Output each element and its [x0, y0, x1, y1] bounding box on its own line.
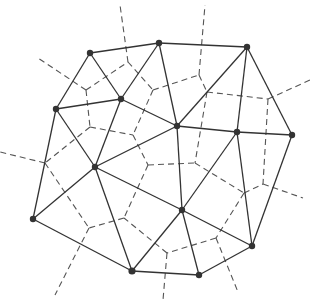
delaunay-edge-FK — [177, 126, 182, 210]
voronoi-edge — [86, 90, 90, 127]
delaunay-edge-GH — [237, 132, 292, 135]
voronoi-edge — [148, 163, 195, 165]
voronoi-edge — [163, 253, 167, 300]
delaunay-edge-AB — [90, 43, 159, 53]
delaunay-edge-FG — [177, 126, 237, 132]
voronoi-edge — [55, 228, 89, 295]
delaunay-edge-FI — [95, 126, 177, 167]
delaunay-edge-CG — [237, 47, 247, 132]
delaunay-edges — [33, 43, 292, 275]
delaunay-edge-GL — [237, 132, 252, 246]
sites — [30, 40, 295, 278]
site-point-I — [92, 164, 98, 170]
site-point-E — [118, 96, 124, 102]
site-point-D — [53, 106, 59, 112]
delaunay-edge-GK — [182, 132, 237, 210]
voronoi-edge — [216, 238, 238, 292]
delaunay-edge-BC — [159, 43, 247, 47]
voronoi-edge — [263, 184, 303, 198]
voronoi-edge — [244, 184, 263, 193]
voronoi-edge — [128, 62, 153, 90]
voronoi-edge — [38, 58, 86, 90]
voronoi-edge — [120, 5, 128, 62]
voronoi-edge — [207, 92, 268, 99]
voronoi-edge — [90, 127, 133, 135]
delaunay-edge-LN — [199, 246, 252, 275]
delaunay-edge-HL — [252, 135, 292, 246]
delaunay-edge-AE — [90, 53, 121, 99]
site-point-K — [179, 207, 185, 213]
voronoi-edge — [199, 5, 205, 75]
delaunay-edge-BF — [159, 43, 177, 126]
delaunay-edge-DI — [56, 109, 95, 167]
site-point-H — [289, 132, 295, 138]
delaunay-voronoi-diagram — [0, 0, 311, 302]
site-point-G — [234, 129, 240, 135]
site-point-M — [128, 267, 135, 274]
site-point-B — [156, 40, 162, 46]
delaunay-edge-EI — [95, 99, 121, 167]
delaunay-edge-KN — [182, 210, 199, 275]
delaunay-edge-KM — [132, 210, 182, 271]
voronoi-edge — [195, 163, 244, 193]
voronoi-edge — [89, 218, 124, 228]
delaunay-edge-EF — [121, 99, 177, 126]
voronoi-edge — [153, 75, 199, 90]
site-point-N — [196, 272, 202, 278]
voronoi-edge — [216, 193, 244, 238]
voronoi-edge — [45, 163, 89, 228]
delaunay-edge-CF — [177, 47, 247, 126]
delaunay-edge-JM — [33, 219, 132, 271]
voronoi-edge — [268, 80, 310, 99]
delaunay-edge-DE — [56, 99, 121, 109]
voronoi-edge — [133, 135, 148, 165]
voronoi-edge — [263, 99, 268, 184]
delaunay-edge-AD — [56, 53, 90, 109]
voronoi-edge — [0, 152, 45, 163]
site-point-J — [30, 216, 36, 222]
site-point-C — [244, 44, 250, 50]
site-point-F — [174, 123, 180, 129]
voronoi-edge — [86, 62, 128, 90]
site-point-A — [87, 50, 93, 56]
site-point-L — [249, 243, 255, 249]
voronoi-edge — [199, 75, 207, 92]
delaunay-edge-CH — [247, 47, 292, 135]
